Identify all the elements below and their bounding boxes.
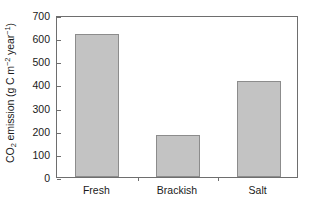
x-axis-tick-label: Fresh xyxy=(56,183,137,197)
y-axis-tick-label: 700 xyxy=(18,11,50,21)
x-axis-tick xyxy=(218,177,219,181)
bar-chart: CO2 emission (g C m−2 year−1) 0100200300… xyxy=(0,0,314,210)
y-axis-title-subscript: 2 xyxy=(9,143,18,147)
plot-area xyxy=(56,16,298,178)
bar-brackish xyxy=(156,135,200,177)
x-axis-tick xyxy=(138,177,139,181)
y-axis-title-mid-2: year xyxy=(4,35,16,58)
x-axis-tick-label: Brackish xyxy=(137,183,218,197)
x-axis-tick-labels: FreshBrackishSalt xyxy=(56,183,298,199)
x-axis-tick-label: Salt xyxy=(217,183,298,197)
y-axis-title-superscript-2: −1 xyxy=(3,27,12,35)
y-axis-tick xyxy=(57,17,61,18)
y-axis-tick-label: 100 xyxy=(18,150,50,160)
y-axis-title-suffix: ) xyxy=(4,23,16,26)
y-axis-tick xyxy=(57,40,61,41)
y-axis-title-prefix: CO xyxy=(4,147,16,163)
y-axis-tick-label: 400 xyxy=(18,80,50,90)
y-axis-title-mid: emission (g C m xyxy=(4,66,16,143)
y-axis-tick-label: 300 xyxy=(18,104,50,114)
y-axis-tick xyxy=(57,133,61,134)
y-axis-tick xyxy=(57,110,61,111)
y-axis-tick-label: 500 xyxy=(18,57,50,67)
y-axis-tick xyxy=(57,156,61,157)
y-axis-tick-label: 200 xyxy=(18,127,50,137)
y-axis-tick-label: 0 xyxy=(18,173,50,183)
y-axis-tick-labels: 0100200300400500600700 xyxy=(18,0,50,210)
y-axis-tick xyxy=(57,86,61,87)
bar-salt xyxy=(237,81,281,177)
y-axis-title-superscript-1: −2 xyxy=(3,58,12,66)
y-axis-tick xyxy=(57,179,61,180)
y-axis-title: CO2 emission (g C m−2 year−1) xyxy=(1,2,15,184)
bar-fresh xyxy=(75,34,119,177)
y-axis-tick xyxy=(57,63,61,64)
y-axis-tick-label: 600 xyxy=(18,34,50,44)
